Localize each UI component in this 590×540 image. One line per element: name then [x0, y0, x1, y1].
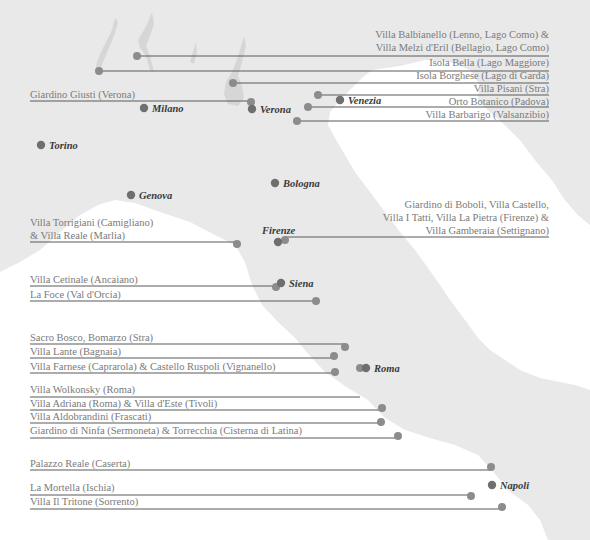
garden-label: Villa Wolkonsky (Roma): [30, 383, 135, 396]
garden-label-line: La Foce (Val d'Orcia): [30, 288, 121, 301]
garden-marker[interactable]: [95, 67, 103, 75]
city-label-napoli: Napoli: [500, 480, 529, 492]
city-marker-siena[interactable]: [277, 279, 285, 287]
garden-marker[interactable]: [247, 98, 255, 106]
garden-label-line: Giardino di Ninfa (Sermoneta) & Torrecch…: [30, 424, 302, 437]
garden-label-line: Sacro Bosco, Bomarzo (Stra): [30, 331, 153, 344]
city-marker-venezia[interactable]: [336, 96, 344, 104]
city-label-firenze: Firenze: [262, 225, 295, 237]
garden-label: Villa Torrigiani (Camigliano)& Villa Rea…: [30, 216, 153, 242]
garden-label-line: Palazzo Reale (Caserta): [30, 457, 130, 470]
garden-label: Villa Aldobrandini (Frascati): [30, 410, 151, 423]
garden-label: Villa Barbarigo (Valsanzibio): [425, 108, 549, 121]
garden-label-line: Orto Botanico (Padova): [449, 95, 549, 108]
city-marker-bologna[interactable]: [271, 179, 279, 187]
garden-label: Villa Adriana (Roma) & Villa d'Este (Tiv…: [30, 397, 217, 410]
city-marker-milano[interactable]: [140, 104, 148, 112]
garden-marker[interactable]: [467, 492, 475, 500]
city-marker-verona[interactable]: [248, 105, 256, 113]
garden-label-line: La Mortella (Ischia): [30, 481, 115, 494]
garden-marker[interactable]: [133, 52, 141, 60]
garden-marker[interactable]: [378, 404, 386, 412]
garden-label: Villa Cetinale (Ancaiano): [30, 273, 138, 286]
garden-label: La Mortella (Ischia): [30, 481, 115, 494]
garden-label: Villa Pisani (Stra): [474, 82, 549, 95]
garden-label-line: Giardino Giusti (Verona): [30, 88, 135, 101]
garden-label: Sacro Bosco, Bomarzo (Stra): [30, 331, 153, 344]
garden-marker[interactable]: [341, 343, 349, 351]
garden-label-line: Villa Barbarigo (Valsanzibio): [425, 108, 549, 121]
garden-label: Giardino di Boboli, Villa Castello,Villa…: [383, 198, 549, 237]
garden-label: Isola Bella (Lago Maggiore): [429, 56, 549, 69]
garden-label: Villa Balbianello (Lenno, Lago Como) &Vi…: [375, 28, 549, 54]
city-marker-genova[interactable]: [127, 191, 135, 199]
garden-label-line: Villa Farnese (Caprarola) & Castello Rus…: [30, 360, 275, 373]
garden-label-line: Villa I Tatti, Villa La Pietra (Firenze)…: [383, 211, 549, 224]
city-marker-torino[interactable]: [37, 141, 45, 149]
garden-marker[interactable]: [314, 91, 322, 99]
garden-marker[interactable]: [312, 297, 320, 305]
garden-marker[interactable]: [293, 117, 301, 125]
garden-label-line: Villa Torrigiani (Camigliano): [30, 216, 153, 229]
garden-marker[interactable]: [331, 368, 339, 376]
city-marker-napoli[interactable]: [488, 481, 496, 489]
garden-marker[interactable]: [487, 463, 495, 471]
garden-marker[interactable]: [498, 503, 506, 511]
city-label-siena: Siena: [289, 278, 314, 290]
garden-label-line: Villa Aldobrandini (Frascati): [30, 410, 151, 423]
garden-label: Orto Botanico (Padova): [449, 95, 549, 108]
city-label-bologna: Bologna: [283, 178, 320, 190]
garden-label: Villa Farnese (Caprarola) & Castello Rus…: [30, 360, 275, 373]
garden-label-line: & Villa Reale (Marlia): [30, 229, 153, 242]
garden-label-line: Villa Gamberaia (Settignano): [383, 224, 549, 237]
garden-label-line: Isola Borghese (Lago di Garda): [416, 69, 549, 82]
city-label-venezia: Venezia: [348, 95, 381, 107]
garden-label: Palazzo Reale (Caserta): [30, 457, 130, 470]
city-marker-firenze[interactable]: [274, 238, 282, 246]
garden-marker[interactable]: [394, 432, 402, 440]
garden-label-line: Villa Balbianello (Lenno, Lago Como) &: [375, 28, 549, 41]
city-label-genova: Genova: [139, 190, 172, 202]
garden-marker[interactable]: [330, 352, 338, 360]
garden-label-line: Villa Melzi d'Eril (Bellagio, Lago Como): [375, 41, 549, 54]
garden-label-line: Villa Cetinale (Ancaiano): [30, 273, 138, 286]
garden-label-line: Villa Wolkonsky (Roma): [30, 383, 135, 396]
garden-label: La Foce (Val d'Orcia): [30, 288, 121, 301]
garden-marker[interactable]: [229, 79, 237, 87]
garden-marker[interactable]: [281, 236, 289, 244]
city-label-roma: Roma: [374, 363, 400, 375]
garden-label-line: Villa Il Tritone (Sorrento): [30, 495, 138, 508]
city-label-milano: Milano: [152, 103, 184, 115]
garden-label: Giardino di Ninfa (Sermoneta) & Torrecch…: [30, 424, 302, 437]
garden-label-line: Isola Bella (Lago Maggiore): [429, 56, 549, 69]
garden-marker[interactable]: [377, 418, 385, 426]
garden-marker[interactable]: [304, 103, 312, 111]
garden-label: Giardino Giusti (Verona): [30, 88, 135, 101]
garden-marker[interactable]: [233, 240, 241, 248]
garden-label: Isola Borghese (Lago di Garda): [416, 69, 549, 82]
garden-label-line: Villa Pisani (Stra): [474, 82, 549, 95]
city-marker-roma[interactable]: [362, 364, 370, 372]
city-label-verona: Verona: [260, 104, 291, 116]
city-label-torino: Torino: [49, 140, 78, 152]
garden-label-line: Villa Lante (Bagnaia): [30, 345, 121, 358]
garden-label: Villa Il Tritone (Sorrento): [30, 495, 138, 508]
garden-label-line: Giardino di Boboli, Villa Castello,: [383, 198, 549, 211]
garden-label-line: Villa Adriana (Roma) & Villa d'Este (Tiv…: [30, 397, 217, 410]
garden-label: Villa Lante (Bagnaia): [30, 345, 121, 358]
